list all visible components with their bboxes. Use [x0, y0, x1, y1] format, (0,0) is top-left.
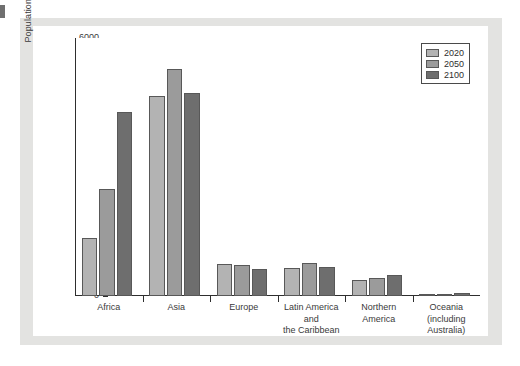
bar-group [82, 38, 133, 296]
bar[interactable] [369, 278, 385, 296]
y-axis-title: Population (in millions) [23, 0, 33, 86]
legend-label: 2100 [444, 70, 464, 80]
x-axis-label: Asia [143, 302, 211, 314]
bar-series-layer [75, 38, 480, 296]
x-axis-label: Latin Americaandthe Caribbean [278, 302, 346, 337]
bar-group [217, 38, 268, 296]
bar[interactable] [82, 238, 98, 296]
bar[interactable] [284, 268, 300, 296]
bar-group [149, 38, 200, 296]
bar[interactable] [99, 189, 115, 296]
x-axis-label: Oceania(includingAustralia) [413, 302, 481, 337]
bar[interactable] [252, 269, 268, 296]
bar[interactable] [167, 69, 183, 296]
bar[interactable] [149, 96, 165, 296]
x-axis-label: Europe [210, 302, 278, 314]
legend-item[interactable]: 2050 [426, 58, 464, 69]
legend-item[interactable]: 2020 [426, 47, 464, 58]
legend-swatch-icon [426, 49, 439, 57]
bar[interactable] [454, 293, 470, 296]
bar[interactable] [117, 112, 133, 296]
legend-item[interactable]: 2100 [426, 69, 464, 80]
bar[interactable] [302, 263, 318, 296]
bar[interactable] [352, 280, 368, 296]
bar-group [352, 38, 403, 296]
corner-mark [0, 5, 5, 18]
bar[interactable] [437, 294, 453, 296]
legend-swatch-icon [426, 71, 439, 79]
legend-label: 2020 [444, 48, 464, 58]
chart-legend[interactable]: 202020502100 [421, 43, 470, 84]
bar[interactable] [319, 267, 335, 296]
bar[interactable] [234, 265, 250, 296]
legend-swatch-icon [426, 60, 439, 68]
bar[interactable] [184, 93, 200, 296]
legend-label: 2050 [444, 59, 464, 69]
figure-root: Population (in millions) 010002000300040… [0, 0, 520, 366]
x-axis-label: NorthernAmerica [345, 302, 413, 325]
bar[interactable] [419, 294, 435, 296]
bar-group [284, 38, 335, 296]
bar[interactable] [387, 275, 403, 296]
bar[interactable] [217, 264, 233, 296]
x-axis-label: Africa [75, 302, 143, 314]
